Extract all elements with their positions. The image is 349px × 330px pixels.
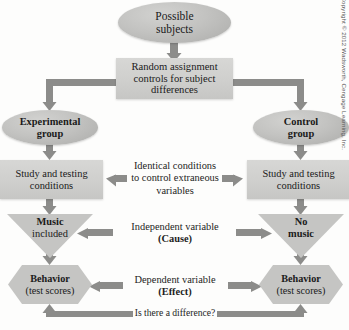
arrow-study-right-to-nomusic [294,199,308,215]
arrow-study-left-to-music [43,199,57,215]
node-experimental-group[interactable]: Experimental group [2,110,98,145]
node-control-group[interactable]: Control group [253,110,349,145]
random-assignment-line2: controls for subject [131,73,217,85]
study-testing-right-line1: Study and testing [262,168,334,180]
study-testing-left-line1: Study and testing [15,168,87,180]
label-dependent-variable: Dependent variable (Effect) [112,274,238,299]
node-study-testing-left[interactable]: Study and testing conditions [0,160,103,199]
node-study-testing-right[interactable]: Study and testing conditions [247,160,349,199]
music-included-line2: included [32,228,68,240]
label-difference-question: Is there a difference? [133,307,217,319]
node-behavior-right[interactable]: Behavior (test scores) [259,265,343,304]
experimental-group-line1: Experimental [20,116,81,128]
difference-question-text: Is there a difference? [135,307,216,318]
arrow-difference-to-behavior-left [43,304,137,317]
identical-conditions-line3: variables [110,185,240,197]
identical-conditions-line2: to control extraneous [110,172,240,184]
dependent-variable-line2: (Effect) [112,286,238,298]
dependent-variable-line1: Dependent variable [112,274,238,286]
independent-variable-line1: Independent variable [110,221,240,233]
behavior-right-line1: Behavior [277,273,326,284]
copyright-notice: Copyright © 2012 Wadsworth, Cengage Lear… [341,0,348,150]
no-music-line1: No [288,216,314,228]
node-random-assignment[interactable]: Random assignment controls for subject d… [116,58,233,99]
arrow-difference-to-behavior-right [214,304,308,317]
independent-variable-line2: (Cause) [110,233,240,245]
control-group-line1: Control [284,116,318,128]
random-assignment-line1: Random assignment [131,61,217,73]
label-independent-variable: Independent variable (Cause) [110,221,240,246]
behavior-left-line1: Behavior [26,273,75,284]
behavior-left-line2: (test scores) [26,285,75,296]
experimental-group-line2: group [20,128,81,140]
possible-subjects-line1: Possible [155,10,193,23]
possible-subjects-line2: subjects [155,23,193,36]
identical-conditions-line1: Identical conditions [110,160,240,172]
random-assignment-line3: differences [131,84,217,96]
study-testing-left-line2: conditions [15,180,87,192]
node-music-included[interactable]: Music included [7,214,93,258]
control-group-line2: group [284,128,318,140]
node-possible-subjects[interactable]: Possible subjects [118,2,231,43]
behavior-right-line2: (test scores) [277,285,326,296]
flowchart-figure: Possible subjects Random assignment cont… [0,0,349,330]
label-identical-conditions: Identical conditions to control extraneo… [110,160,240,197]
node-no-music[interactable]: No music [258,214,344,258]
node-behavior-left[interactable]: Behavior (test scores) [8,265,92,304]
study-testing-right-line2: conditions [262,180,334,192]
music-included-line1: Music [32,216,68,228]
no-music-line2: music [288,228,314,240]
